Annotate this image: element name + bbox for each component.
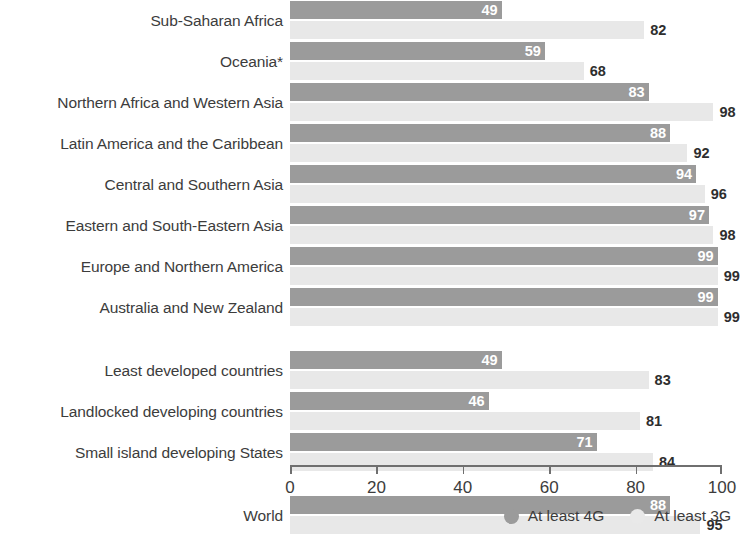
x-axis-tick	[720, 465, 722, 474]
row-bars: 9798	[290, 205, 722, 246]
row-bars: 9999	[290, 287, 722, 328]
chart-row: Latin America and the Caribbean8892	[0, 123, 739, 164]
bar-4g: 94	[290, 165, 696, 183]
x-axis-tick-label: 20	[367, 478, 386, 498]
chart-legend: At least 4GAt least 3G	[0, 504, 739, 528]
bar-value-label: 81	[646, 412, 662, 430]
row-bars: 9496	[290, 164, 722, 205]
bar-4g: 83	[290, 83, 649, 101]
x-axis-tick-label: 40	[453, 478, 472, 498]
bar-value-label: 99	[698, 247, 714, 265]
bar-4g: 99	[290, 288, 718, 306]
row-bars: 5968	[290, 41, 722, 82]
chart-row: Europe and Northern America9999	[0, 246, 739, 287]
x-axis-tick-label: 80	[626, 478, 645, 498]
bar-3g: 98	[290, 103, 713, 121]
plot-area: Sub-Saharan Africa4982Oceania*5968Northe…	[0, 0, 739, 466]
x-axis-tick	[376, 465, 378, 474]
bar-4g: 97	[290, 206, 709, 224]
category-label: Latin America and the Caribbean	[60, 123, 283, 164]
bar-value-label: 49	[482, 351, 498, 369]
bar-3g: 84	[290, 453, 653, 471]
bar-value-label: 94	[676, 165, 692, 183]
bar-4g: 59	[290, 42, 545, 60]
bar-3g: 83	[290, 371, 649, 389]
bar-3g: 99	[290, 308, 718, 326]
bar-4g: 46	[290, 392, 489, 410]
x-axis-tick	[549, 465, 551, 474]
category-label: Central and Southern Asia	[105, 164, 283, 205]
bar-value-label: 88	[650, 124, 666, 142]
bar-value-label: 49	[482, 1, 498, 19]
bar-value-label: 99	[724, 267, 740, 285]
bar-value-label: 98	[719, 226, 735, 244]
bar-3g: 98	[290, 226, 713, 244]
row-bars: 4982	[290, 0, 722, 41]
bar-4g: 99	[290, 247, 718, 265]
category-label: Eastern and South-Eastern Asia	[65, 205, 283, 246]
bar-4g: 88	[290, 124, 670, 142]
chart-row: Landlocked developing countries4681	[0, 391, 739, 432]
category-label: Oceania*	[220, 41, 283, 82]
category-label: Europe and Northern America	[81, 246, 283, 287]
bar-value-label: 84	[659, 453, 675, 471]
bar-value-label: 96	[711, 185, 727, 203]
bar-3g: 68	[290, 62, 584, 80]
x-axis-tick	[290, 465, 292, 474]
chart-row: Australia and New Zealand9999	[0, 287, 739, 328]
x-axis-tick	[463, 465, 465, 474]
row-bars: 4983	[290, 350, 722, 391]
category-label: Northern Africa and Western Asia	[57, 82, 283, 123]
chart-row: Oceania*5968	[0, 41, 739, 82]
legend-item-4g[interactable]: At least 4G	[504, 507, 605, 525]
bar-value-label: 59	[525, 42, 541, 60]
bar-3g: 92	[290, 144, 687, 162]
category-label: Landlocked developing countries	[60, 391, 283, 432]
chart-row: Least developed countries4983	[0, 350, 739, 391]
x-axis-tick-label: 0	[285, 478, 294, 498]
bar-4g: 71	[290, 433, 597, 451]
category-label: Australia and New Zealand	[99, 287, 283, 328]
bar-value-label: 82	[650, 21, 666, 39]
row-bars: 9999	[290, 246, 722, 287]
x-axis-tick-label: 60	[540, 478, 559, 498]
bar-3g: 96	[290, 185, 705, 203]
bar-value-label: 97	[689, 206, 705, 224]
category-label: Small island developing States	[75, 432, 283, 473]
bar-value-label: 99	[724, 308, 740, 326]
chart-row: Northern Africa and Western Asia8398	[0, 82, 739, 123]
chart-row: Eastern and South-Eastern Asia9798	[0, 205, 739, 246]
legend-label: At least 3G	[654, 507, 731, 525]
chart-row: Sub-Saharan Africa4982	[0, 0, 739, 41]
row-bars: 8892	[290, 123, 722, 164]
x-axis: 020406080100	[290, 465, 722, 467]
bar-4g: 49	[290, 351, 502, 369]
bar-value-label: 46	[469, 392, 485, 410]
bar-value-label: 98	[719, 103, 735, 121]
bar-value-label: 83	[628, 83, 644, 101]
bar-4g: 49	[290, 1, 502, 19]
x-axis-tick-label: 100	[708, 478, 736, 498]
bar-value-label: 83	[655, 371, 671, 389]
category-label: Sub-Saharan Africa	[150, 0, 283, 41]
bar-value-label: 71	[577, 433, 593, 451]
bar-3g: 82	[290, 21, 644, 39]
row-bars: 8398	[290, 82, 722, 123]
legend-item-3g[interactable]: At least 3G	[630, 507, 731, 525]
bar-value-label: 68	[590, 62, 606, 80]
bar-value-label: 92	[693, 144, 709, 162]
x-axis-tick	[636, 465, 638, 474]
legend-swatch-dark-circle-icon	[504, 509, 519, 524]
chart-row: Central and Southern Asia9496	[0, 164, 739, 205]
legend-label: At least 4G	[528, 507, 605, 525]
bar-3g: 81	[290, 412, 640, 430]
category-label: Least developed countries	[105, 350, 283, 391]
bar-3g: 99	[290, 267, 718, 285]
legend-swatch-light-circle-icon	[630, 509, 645, 524]
row-bars: 4681	[290, 391, 722, 432]
bar-value-label: 99	[698, 288, 714, 306]
